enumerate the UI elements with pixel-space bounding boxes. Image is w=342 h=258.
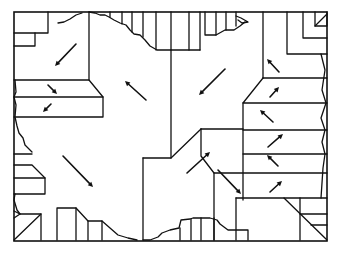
arrow-up-left [260, 110, 273, 122]
arrow-up-right [270, 87, 279, 97]
bottom-right-diagonal [284, 198, 327, 240]
top-mid-stair [205, 12, 245, 35]
right-l-outer [287, 12, 327, 54]
bottom-center-stair [143, 218, 248, 240]
arrow-shaft [268, 136, 281, 147]
arrow-down-right [63, 156, 93, 187]
arrow-down-left [55, 44, 76, 66]
center-step [143, 129, 201, 158]
left-bottom-diagonal [14, 214, 41, 240]
arrow-shaft [269, 61, 279, 72]
arrow-up-right [268, 134, 283, 147]
arrow-shaft [201, 69, 225, 93]
arrow-up-left [267, 59, 279, 72]
arrow-shaft [262, 112, 273, 122]
top-left-small-box [14, 33, 35, 46]
right-zigzag [321, 54, 326, 198]
top-stair-coast [89, 12, 200, 50]
arrow-up-left [267, 155, 278, 166]
arrow-down-left [43, 104, 51, 112]
top-left-box [14, 12, 48, 33]
arrow-shaft [127, 83, 146, 100]
arrow-up-left [125, 81, 146, 100]
coast-bit [236, 16, 248, 23]
right-band-line [201, 129, 327, 173]
region-diagram [0, 0, 342, 258]
arrow-shaft [63, 156, 91, 185]
coastline [58, 13, 82, 23]
arrow-up-right [270, 181, 282, 192]
arrow-shaft [57, 44, 76, 64]
arrow-down-right [48, 85, 57, 94]
right-band-line [243, 78, 327, 103]
boundary-lines [14, 12, 327, 240]
left-band [14, 165, 45, 194]
left-coast [14, 80, 32, 152]
bottom-left-coast [102, 221, 137, 240]
right-l-diagonal [315, 14, 327, 26]
left-step-band [14, 80, 103, 117]
direction-arrows [43, 44, 283, 194]
arrow-down-left [199, 69, 225, 95]
bottom-left-stair [57, 208, 102, 240]
arrow-shaft [187, 154, 208, 173]
